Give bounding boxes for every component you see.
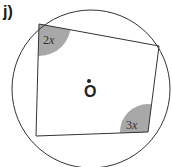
cyclic-quadrilateral-diagram: O 2x 3x (0, 0, 172, 167)
angle-label-3x: 3x (126, 118, 138, 132)
angle-label-2x: 2x (43, 33, 55, 47)
center-label: O (84, 83, 96, 100)
